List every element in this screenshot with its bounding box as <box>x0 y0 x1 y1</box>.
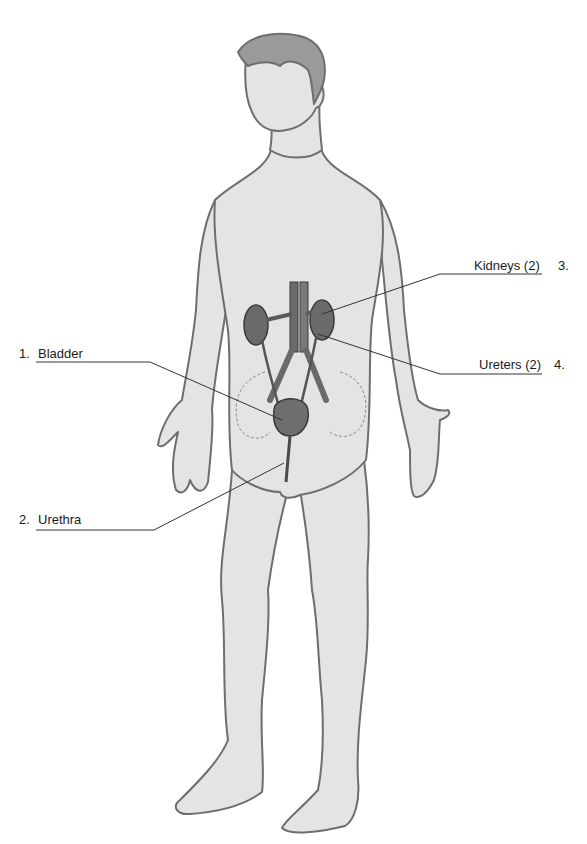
bladder-number: 1. <box>19 346 30 361</box>
urethra-number: 2. <box>19 512 30 527</box>
right-kidney <box>310 300 334 340</box>
urethra-label: Urethra <box>38 512 81 527</box>
bladder-label: Bladder <box>38 346 83 361</box>
kidneys-label: Kidneys (2) <box>474 258 540 273</box>
urinary-system-figure <box>0 0 587 844</box>
left-kidney <box>244 305 268 345</box>
right-arm <box>380 200 449 497</box>
left-leg <box>176 470 288 814</box>
kidneys-number: 3. <box>558 258 569 273</box>
torso <box>214 145 383 498</box>
ureters-label: Ureters (2) <box>479 357 541 372</box>
bladder <box>274 399 309 436</box>
ureters-number: 4. <box>554 357 565 372</box>
right-leg <box>282 460 369 832</box>
